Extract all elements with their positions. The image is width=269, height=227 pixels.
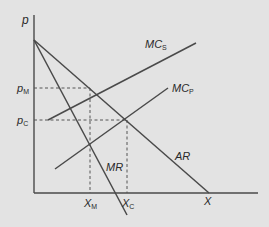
mcs-label-sub: S (162, 44, 167, 51)
y-axis-label: p (21, 13, 29, 27)
economics-diagram: p X pM pC XM XC MCS MCP AR MR (0, 0, 269, 227)
pm-label: pM (16, 82, 29, 95)
mcs-label: MCS (145, 38, 167, 51)
xc-label: XC (121, 197, 134, 210)
mcp-curve (55, 88, 168, 169)
pm-label-sub: M (23, 88, 29, 95)
mcs-label-main: MC (145, 38, 162, 50)
mcp-label: MCP (172, 82, 194, 95)
x-axis-label: X (203, 195, 212, 207)
pc-label-sub: C (23, 120, 28, 127)
mcp-label-main: MC (172, 82, 189, 94)
ar-label: AR (174, 150, 190, 162)
xm-label: XM (83, 197, 97, 210)
mr-label: MR (106, 161, 123, 173)
pc-label: pC (16, 114, 28, 127)
xc-label-sub: C (129, 203, 134, 210)
pm-label-main: p (16, 82, 23, 94)
pc-label-main: p (16, 114, 23, 126)
diagram-canvas: p X pM pC XM XC MCS MCP AR MR (0, 0, 269, 227)
mcp-label-sub: P (189, 88, 194, 95)
xm-label-sub: M (91, 203, 97, 210)
